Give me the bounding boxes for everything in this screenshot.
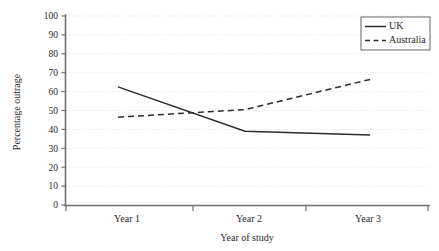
legend-label-australia: Australia [389, 34, 426, 45]
y-tick-label: 50 [49, 106, 59, 116]
y-tick-label: 10 [49, 181, 59, 191]
y-tick-label: 80 [49, 49, 59, 59]
y-tick-label: 0 [53, 200, 58, 210]
y-tick-label: 90 [49, 30, 59, 40]
y-tick-label: 30 [49, 144, 59, 154]
chart-legend: UK Australia [361, 17, 430, 50]
y-tick-label: 70 [49, 68, 59, 78]
x-axis-ticks [66, 206, 428, 212]
y-tick-label: 60 [49, 87, 59, 97]
legend-label-uk: UK [389, 20, 404, 31]
x-tick-label: Year 3 [355, 213, 381, 224]
line-chart: 100 90 80 70 60 50 40 30 20 10 0 Year 1 … [0, 0, 439, 251]
y-tick-label: 40 [49, 125, 59, 135]
y-axis-tick-labels: 100 90 80 70 60 50 40 30 20 10 0 [44, 11, 59, 210]
y-axis-title: Percentage outrage [11, 73, 22, 150]
y-tick-label: 100 [44, 11, 59, 21]
chart-canvas: 100 90 80 70 60 50 40 30 20 10 0 Year 1 … [0, 0, 439, 251]
x-axis-tick-labels: Year 1 Year 2 Year 3 [114, 213, 381, 224]
x-axis-title: Year of study [220, 232, 273, 243]
x-tick-label: Year 1 [114, 213, 140, 224]
x-tick-label: Year 2 [236, 213, 262, 224]
y-tick-label: 20 [49, 163, 59, 173]
